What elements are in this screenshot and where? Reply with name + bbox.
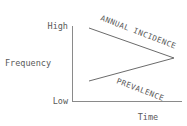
y-axis-title: Frequency [5,58,51,68]
prevalence-series-label: PREVALENCE [115,76,165,102]
prevalence-line [89,58,174,81]
chart-canvas: High Low Frequency Time ANNUAL INCIDENCE… [0,0,187,126]
y-tick-high-label: High [48,21,68,31]
y-tick-low-label: Low [53,96,69,106]
x-axis-title: Time [138,112,158,122]
epidemiology-frequency-time-chart: High Low Frequency Time ANNUAL INCIDENCE… [0,0,187,126]
